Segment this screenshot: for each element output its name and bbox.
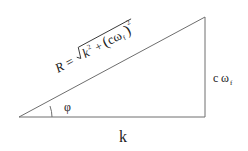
diagram-svg: R = k 2 + ( c ω f ) 2 φ k c ω f <box>0 0 248 151</box>
formula-lhs: R = <box>51 53 77 76</box>
hypotenuse-formula: R = k 2 + ( c ω f ) 2 <box>50 17 140 78</box>
angle-label: φ <box>64 100 71 114</box>
triangle-diagram: R = k 2 + ( c ω f ) 2 φ k c ω f <box>0 0 248 151</box>
angle-arc <box>50 106 52 117</box>
vertical-c: c <box>213 71 218 85</box>
vertical-label: c ω f <box>213 71 233 87</box>
vertical-omega: ω <box>221 71 229 85</box>
vertical-omega-sub: f <box>230 79 233 87</box>
base-label: k <box>119 128 127 145</box>
